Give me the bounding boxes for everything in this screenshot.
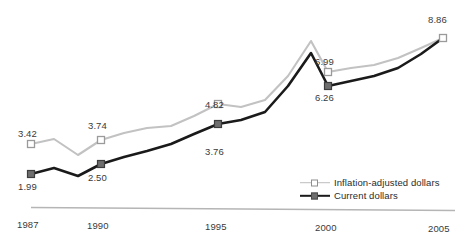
data-label-3-76: 3.76 — [205, 146, 224, 157]
x-axis-line — [31, 208, 455, 211]
chart-plot-area — [0, 0, 470, 247]
data-label-4-82: 4.82 — [205, 99, 224, 110]
series-line-inflation-adjusted — [31, 38, 443, 155]
data-label-6-99: 6.99 — [315, 56, 334, 67]
legend-label-inflation-adjusted: Inflation-adjusted dollars — [334, 177, 440, 188]
data-label-2-50: 2.50 — [88, 172, 107, 183]
data-label-8-86: 8.86 — [428, 14, 447, 25]
legend-label-current-dollars: Current dollars — [334, 190, 398, 201]
x-tick-1990: 1990 — [87, 220, 109, 231]
chart-legend: Inflation-adjusted dollars Current dolla… — [300, 176, 465, 202]
data-label-6-26: 6.26 — [315, 92, 334, 103]
x-tick-1995: 1995 — [205, 221, 227, 232]
data-label-1-99: 1.99 — [18, 181, 37, 192]
x-tick-2000: 2000 — [315, 222, 337, 233]
data-label-3-42: 3.42 — [18, 128, 37, 139]
x-tick-1987: 1987 — [17, 219, 39, 230]
legend-item-inflation-adjusted: Inflation-adjusted dollars — [300, 176, 465, 189]
data-label-3-74: 3.74 — [88, 120, 107, 131]
x-tick-2005: 2005 — [428, 223, 450, 234]
legend-swatch-inflation-adjusted-icon — [300, 177, 330, 188]
series-markers-current-dollars — [28, 83, 332, 178]
legend-item-current-dollars: Current dollars — [300, 189, 465, 202]
legend-swatch-current-dollars-icon — [300, 190, 330, 201]
line-chart: 3.42 3.74 4.82 6.99 8.86 1.99 2.50 3.76 … — [0, 0, 470, 247]
